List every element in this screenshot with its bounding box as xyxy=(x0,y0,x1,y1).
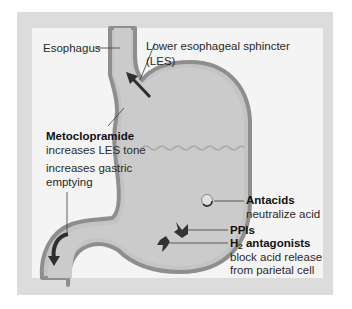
h2-effect-line1: block acid release xyxy=(230,251,322,264)
metoclopramide-effect2-line1: increases gastric xyxy=(46,162,132,175)
ppis-name: PPIs xyxy=(230,224,255,236)
antacids-name: Antacids xyxy=(246,194,295,206)
antacids-effect: neutralize acid xyxy=(246,208,320,221)
h2-name-suffix: antagonists xyxy=(243,237,311,249)
esophagus-label: Esophagus xyxy=(43,42,101,55)
ppis-label: PPIs xyxy=(230,224,255,237)
les-label-line2: (LES) xyxy=(146,55,175,68)
antacids-label: Antacids xyxy=(246,194,295,207)
circle-swirl-icon xyxy=(202,195,213,206)
metoclopramide-effect1: increases LES tone xyxy=(46,144,146,157)
les-label-line1: Lower esophageal sphincter xyxy=(146,40,290,53)
metoclopramide-label: Metoclopramide xyxy=(46,130,134,143)
h2-effect-line2: from parietal cell xyxy=(230,264,314,277)
metoclopramide-name: Metoclopramide xyxy=(46,130,134,142)
metoclopramide-effect2-line2: emptying xyxy=(46,176,93,189)
